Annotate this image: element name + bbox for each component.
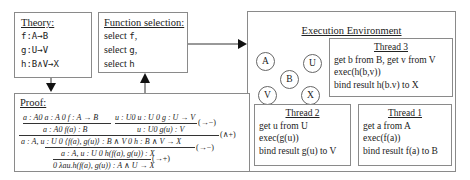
proof-title: Proof: — [20, 96, 249, 109]
proof-step: a : A0 f(a) : B — [43, 125, 88, 134]
thread-3-title: Thread 3 — [334, 41, 448, 54]
thread-1-title: Thread 1 — [363, 107, 447, 120]
arrow-up-icon — [140, 73, 150, 83]
proof-conclusion: 0 λau.h(f(a), g(u)) : A ∧ U → X — [53, 161, 154, 170]
arrow-down-icon — [46, 83, 56, 92]
node-u: U — [303, 54, 322, 73]
rule-label: (→−) — [198, 118, 216, 127]
thread-1-line: exec(f(a)) — [363, 132, 447, 145]
thread-2-title: Thread 2 — [259, 107, 346, 120]
thread-3-line: get b from B, get v from V — [334, 54, 448, 67]
thread-3-line: bind result h(b.v) to X — [334, 79, 448, 92]
proof-step: a : A, u : U 0 h(f(a), g(u)) : X — [61, 149, 155, 158]
proof-premise-2: u : U0 u : U 0 g : U → V — [115, 113, 195, 122]
rule-label: (→+) — [152, 154, 170, 163]
proof-step: u : U0 g(u) : V — [137, 125, 184, 134]
theory-item-h: h:B∧V→X — [21, 57, 91, 71]
thread-1-box: Thread 1 get a from A exec(f(a)) bind re… — [358, 104, 452, 166]
node-b: B — [280, 70, 299, 89]
select-g: select g, — [104, 43, 187, 57]
function-selection-title: Function selection: — [104, 16, 187, 29]
thread-3-box: Thread 3 get b from B, get v from V exec… — [329, 38, 453, 97]
node-x: X — [301, 86, 320, 105]
node-v: V — [258, 86, 277, 105]
execution-environment-title: Execution Environment — [248, 25, 455, 36]
thread-3-line: exec(h(b,v)) — [334, 66, 448, 79]
thread-2-line: bind result g(u) to V — [259, 145, 346, 158]
inference-bar — [115, 123, 197, 124]
function-selection-box: Function selection: select f, select g, … — [98, 12, 188, 73]
arrow-right-icon — [238, 39, 247, 49]
thread-1-line: get a from A — [363, 120, 447, 133]
inference-bar — [53, 159, 151, 160]
rule-label: (→−) — [196, 143, 214, 152]
select-f: select f, — [104, 29, 187, 43]
select-h: select h — [104, 57, 187, 71]
proof-premise-1: a : A0 a : A 0 f : A → B — [23, 113, 98, 122]
inference-bar — [23, 123, 111, 124]
theory-item-g: g:U→V — [21, 43, 91, 57]
thread-2-box: Thread 2 get u from U exec(g(u)) bind re… — [254, 104, 351, 166]
node-a: A — [256, 52, 275, 71]
rule-label: (∧+) — [220, 130, 236, 139]
thread-2-line: get u from U — [259, 120, 346, 133]
thread-1-line: bind result f(a) to B — [363, 145, 447, 158]
inference-bar — [45, 147, 195, 148]
proof-step: a : A, u : U 0 ⟨f(a), g(u)⟩ : B ∧ V 0 h … — [21, 137, 181, 146]
execution-environment-box: Execution Environment A U B V X Thread 3… — [247, 11, 456, 172]
inference-bar — [19, 135, 219, 136]
theory-box: Theory: f:A→B g:U→V h:B∧V→X — [14, 12, 92, 78]
theory-title: Theory: — [21, 16, 91, 29]
theory-item-f: f:A→B — [21, 29, 91, 43]
thread-2-line: exec(g(u)) — [259, 132, 346, 145]
proof-box: Proof: a : A0 a : A 0 f : A → B u : U0 u… — [14, 93, 250, 172]
